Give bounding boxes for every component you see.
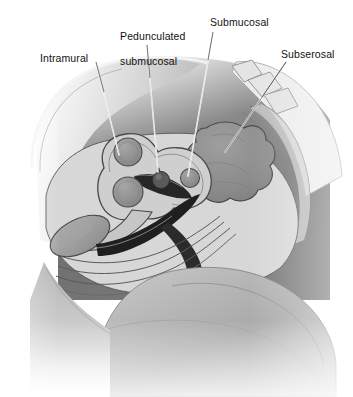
label-pedunculated-submucosal: Pedunculated submucosal: [108, 18, 186, 80]
submucosal-fibroid: [181, 169, 200, 188]
label-intramural: Intramural: [40, 52, 88, 64]
intramural-fibroid-lower: [113, 177, 143, 207]
label-pedunculated-line1: Pedunculated: [120, 30, 185, 42]
label-pedunculated-line2: submucosal: [120, 55, 177, 67]
label-subserosal: Subserosal: [281, 48, 335, 60]
label-submucosal: Submucosal: [210, 16, 269, 28]
illustration-canvas: Intramural Pedunculated submucosal Submu…: [0, 0, 353, 397]
